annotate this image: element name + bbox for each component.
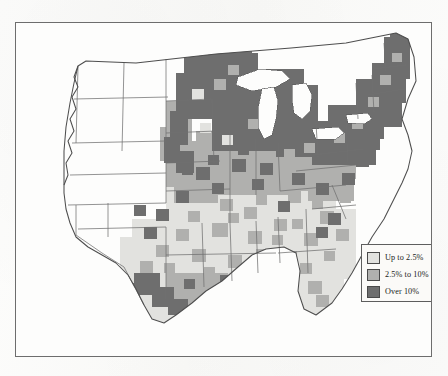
- legend-swatch-mid: [367, 269, 380, 281]
- legend-label-mid: 2.5% to 10%: [385, 270, 429, 279]
- legend-label-high: Over 10%: [385, 287, 419, 296]
- legend-swatch-high: [367, 286, 380, 298]
- legend-label-low: Up to 2.5%: [385, 253, 424, 262]
- legend-row-low: Up to 2.5%: [367, 249, 431, 266]
- choropleth-map: [16, 23, 431, 356]
- legend-swatch-low: [367, 252, 380, 264]
- legend-row-mid: 2.5% to 10%: [367, 266, 431, 283]
- legend-row-high: Over 10%: [367, 283, 431, 300]
- map-frame: Up to 2.5% 2.5% to 10% Over 10%: [15, 22, 432, 357]
- map-legend: Up to 2.5% 2.5% to 10% Over 10%: [361, 244, 432, 302]
